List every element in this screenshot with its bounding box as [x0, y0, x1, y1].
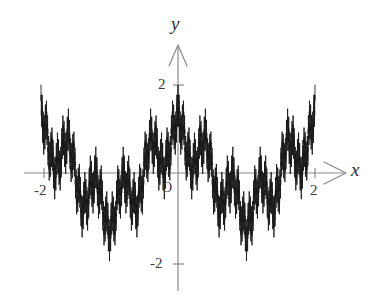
plot-canvas [0, 0, 379, 301]
origin-label: O [162, 181, 172, 195]
weierstrass-plot-figure: y x O 2 -2 -2 2 [0, 0, 379, 301]
y-axis-label: y [171, 14, 179, 33]
x-tick-label-positive-2: 2 [310, 183, 318, 198]
x-axis-label: x [351, 160, 359, 179]
y-tick-label-negative-2: -2 [150, 256, 163, 271]
x-tick-label-negative-2: -2 [34, 183, 47, 198]
y-tick-label-positive-2: 2 [158, 77, 166, 92]
